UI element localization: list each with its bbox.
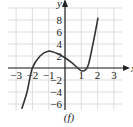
- x-axis-title: x: [130, 62, 133, 74]
- y-tick-labels: −6−4−22468: [50, 14, 62, 110]
- y-axis-title: y: [56, 0, 62, 9]
- chart-caption: (f): [64, 111, 75, 124]
- x-tick-label: 2: [95, 69, 101, 81]
- y-tick-label: −4: [50, 86, 62, 98]
- function-graph: x y −3−2−1123 −6−4−22468 (f): [0, 0, 133, 127]
- x-tick-label: 3: [111, 69, 117, 81]
- x-tick-labels: −3−2−1123: [10, 69, 117, 81]
- y-tick-label: −6: [50, 98, 62, 110]
- y-axis-arrow-icon: [62, 0, 68, 7]
- y-tick-label: 8: [57, 14, 63, 26]
- y-tick-label: −2: [50, 74, 62, 86]
- y-tick-label: 6: [57, 26, 63, 38]
- x-tick-label: −3: [10, 69, 22, 81]
- x-tick-label: −2: [27, 69, 39, 81]
- x-axis-arrow-icon: [123, 65, 130, 71]
- y-tick-label: 4: [57, 38, 63, 50]
